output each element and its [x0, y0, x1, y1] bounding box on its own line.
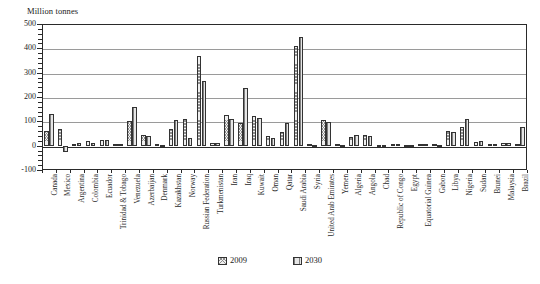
- bar-group: [210, 24, 220, 170]
- x-axis-tick: [361, 170, 362, 173]
- x-axis-category-label: Azerbaijan: [149, 174, 156, 206]
- bar-group: [460, 24, 470, 170]
- bar-group: [321, 24, 331, 170]
- bar-2009: [307, 144, 312, 146]
- bar-group: [294, 24, 304, 170]
- bar-2030: [132, 107, 137, 145]
- y-axis-tick-label: 100: [2, 117, 36, 125]
- bar-group: [404, 24, 414, 170]
- bar-group: [363, 24, 373, 170]
- bar-group: [44, 24, 54, 170]
- bar-2009: [280, 132, 285, 145]
- bar-2030: [243, 88, 248, 145]
- bar-2009: [44, 131, 49, 146]
- x-axis-tick: [291, 170, 292, 173]
- bar-2030: [63, 146, 68, 152]
- bar-group: [335, 24, 345, 170]
- x-axis-tick: [402, 170, 403, 173]
- bar-group: [72, 24, 82, 170]
- x-axis-tick: [208, 170, 209, 173]
- x-axis-category-label: Equatorial Guinea: [426, 174, 433, 227]
- x-axis-category-label: Algeria: [356, 174, 363, 196]
- bar-2030: [257, 118, 262, 145]
- bar-2009: [127, 121, 132, 145]
- bar-2009: [210, 143, 215, 145]
- bar-2030: [506, 143, 511, 145]
- x-axis-category-label: Saudi Arabia: [301, 174, 308, 211]
- bar-group: [127, 24, 137, 170]
- legend-label-2030: 2030: [305, 256, 322, 265]
- x-axis-category-label: Gabon: [440, 174, 447, 193]
- bar-2009: [321, 120, 326, 146]
- bar-2030: [340, 145, 345, 147]
- x-axis-category-label: Mexico: [65, 174, 72, 196]
- x-axis-tick: [319, 170, 320, 173]
- x-axis-tick: [485, 170, 486, 173]
- bar-group: [169, 24, 179, 170]
- bar-2030: [202, 81, 207, 145]
- x-axis-tick: [444, 170, 445, 173]
- x-axis-category-label: Denmark: [162, 174, 169, 201]
- x-axis-category-label: Trinidad & Tobago: [121, 174, 128, 229]
- x-axis-tick: [305, 170, 306, 173]
- x-axis-tick: [236, 170, 237, 173]
- bar-group: [100, 24, 110, 170]
- bar-2030: [91, 143, 96, 146]
- x-axis-tick: [388, 170, 389, 173]
- bar-2030: [160, 145, 165, 147]
- bar-group: [474, 24, 484, 170]
- bar-group: [266, 24, 276, 170]
- bar-2009: [72, 144, 77, 146]
- bar-group: [307, 24, 317, 170]
- x-axis-category-label: Iraq: [246, 174, 253, 186]
- bar-2009: [266, 136, 271, 145]
- bar-2030: [105, 140, 110, 146]
- bar-2009: [113, 144, 118, 146]
- bar-group: [224, 24, 234, 170]
- bar-group: [501, 24, 511, 170]
- x-axis-tick: [222, 170, 223, 173]
- bar-2030: [215, 143, 220, 146]
- bar-group: [58, 24, 68, 170]
- bar-group: [197, 24, 207, 170]
- bar-2030: [271, 138, 276, 146]
- x-axis-tick: [70, 170, 71, 173]
- x-axis-category-label: Chad: [384, 174, 391, 189]
- bar-2009: [363, 135, 368, 145]
- x-axis-category-label: Norway: [190, 174, 197, 197]
- bar-2009: [252, 116, 257, 145]
- x-axis-tick: [416, 170, 417, 173]
- x-axis-tick: [167, 170, 168, 173]
- bar-group: [418, 24, 428, 170]
- x-axis-category-label: Brazil: [523, 174, 530, 192]
- x-axis-category-label: Libya: [453, 174, 460, 191]
- bar-chart: Million tonnes -1000100200300400500 Cana…: [0, 0, 540, 284]
- legend-swatch-2030-icon: [293, 257, 302, 265]
- legend-swatch-2009-icon: [218, 257, 227, 265]
- bar-2009: [141, 135, 146, 146]
- bar-2030: [396, 144, 401, 146]
- bar-2009: [335, 144, 340, 146]
- bars-layer: [42, 24, 527, 170]
- bar-group: [86, 24, 96, 170]
- bar-2030: [229, 119, 234, 146]
- x-axis-category-label: Canada: [52, 174, 59, 196]
- bar-2009: [169, 129, 174, 145]
- bar-2009: [377, 145, 382, 147]
- y-axis-tick-label: 0: [2, 142, 36, 150]
- bar-2009: [515, 144, 520, 146]
- x-axis-tick: [499, 170, 500, 173]
- bar-group: [432, 24, 442, 170]
- bar-2009: [86, 141, 91, 145]
- legend-item-2009: 2009: [218, 256, 247, 265]
- x-axis-tick: [513, 170, 514, 173]
- legend: 2009 2030: [0, 256, 540, 265]
- y-axis-tick-label: 500: [2, 20, 36, 28]
- bar-2009: [432, 144, 437, 146]
- x-axis-labels: CanadaMexicoArgentinaColombiaEcuadorTrin…: [42, 174, 527, 244]
- x-axis-category-label: Russian Federation: [204, 174, 211, 229]
- bar-2030: [146, 136, 151, 146]
- bar-2030: [520, 127, 525, 145]
- x-axis-category-label: Venezuela: [135, 174, 142, 204]
- bar-2009: [391, 144, 396, 146]
